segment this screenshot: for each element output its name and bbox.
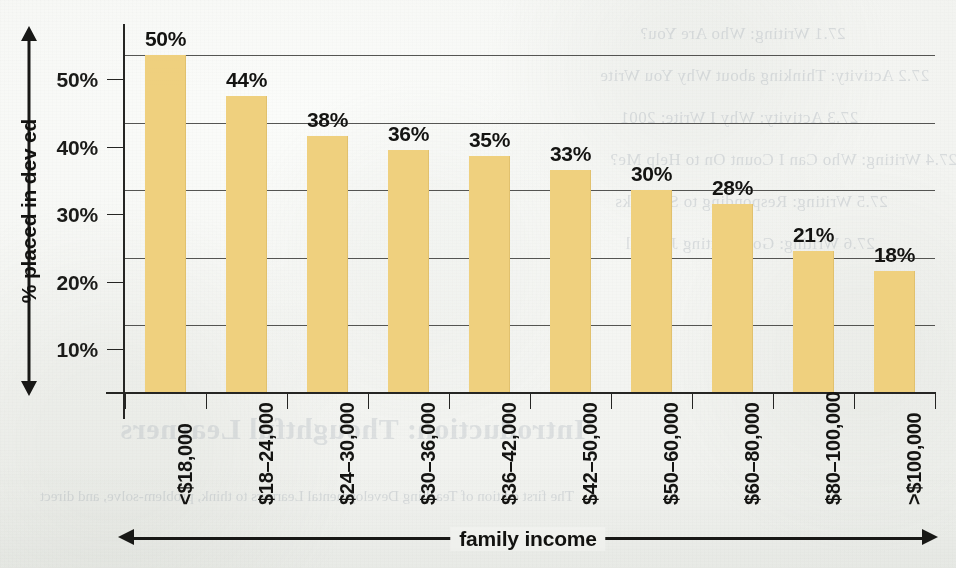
y-arrow-down-icon bbox=[21, 381, 37, 396]
x-arrow-right-icon bbox=[922, 529, 938, 545]
x-tick-mark bbox=[611, 394, 612, 409]
bar-value-label: 35% bbox=[469, 128, 510, 152]
y-tick-mark: 10% bbox=[107, 349, 125, 350]
bar[interactable] bbox=[550, 170, 591, 393]
y-arrow-up-icon bbox=[21, 26, 37, 41]
x-category-label: <$18,000 bbox=[174, 423, 197, 505]
bar[interactable] bbox=[793, 251, 834, 393]
bar-value-label: 21% bbox=[793, 223, 834, 247]
x-tick-mark bbox=[125, 394, 126, 409]
x-category-label: $80–100,000 bbox=[822, 392, 845, 506]
bar-value-label: 36% bbox=[388, 122, 429, 146]
x-category-label: $18–24,000 bbox=[255, 402, 278, 505]
y-tick-label: 10% bbox=[57, 338, 98, 362]
x-category-label: $60–80,000 bbox=[741, 402, 764, 505]
bar-value-label: 38% bbox=[307, 108, 348, 132]
bar[interactable] bbox=[469, 156, 510, 393]
bar-value-label: 50% bbox=[145, 27, 186, 51]
bar-value-label: 18% bbox=[874, 243, 915, 267]
bar-value-label: 33% bbox=[550, 142, 591, 166]
gridline-50% bbox=[125, 55, 935, 56]
bar-value-label: 28% bbox=[712, 176, 753, 200]
x-tick-mark bbox=[287, 394, 288, 409]
bar[interactable] bbox=[631, 190, 672, 393]
bar[interactable] bbox=[874, 271, 915, 393]
x-tick-mark bbox=[692, 394, 693, 409]
bar[interactable] bbox=[712, 204, 753, 393]
y-tick-mark: 40% bbox=[107, 147, 125, 148]
x-tick-mark bbox=[368, 394, 369, 409]
bar[interactable] bbox=[388, 150, 429, 393]
bar-chart: % placed in dev ed 10%20%30%40%50% 50%44… bbox=[0, 0, 956, 568]
x-category-label: $42–50,000 bbox=[579, 402, 602, 505]
x-tick-mark bbox=[206, 394, 207, 409]
x-tick-mark bbox=[773, 394, 774, 409]
x-axis-title: family income bbox=[450, 527, 605, 551]
y-tick-label: 50% bbox=[57, 68, 98, 92]
x-category-label: $36–42,000 bbox=[498, 402, 521, 505]
y-tick-label: 30% bbox=[57, 203, 98, 227]
bar-value-label: 44% bbox=[226, 68, 267, 92]
x-category-label: $30–36,000 bbox=[417, 402, 440, 505]
y-tick-label: 40% bbox=[57, 135, 98, 159]
x-category-label: $50–60,000 bbox=[660, 402, 683, 505]
y-tick-mark: 20% bbox=[107, 282, 125, 283]
bar-value-label: 30% bbox=[631, 162, 672, 186]
y-tick-label: 20% bbox=[57, 270, 98, 294]
x-axis-title-group: family income bbox=[118, 524, 938, 554]
y-tick-mark: 30% bbox=[107, 214, 125, 215]
bar[interactable] bbox=[307, 136, 348, 393]
x-category-label: >$100,000 bbox=[903, 413, 926, 505]
x-tick-mark bbox=[854, 394, 855, 409]
bar[interactable] bbox=[226, 96, 267, 393]
plot-area: 50%44%38%36%35%33%30%28%21%18% bbox=[125, 24, 935, 393]
y-axis-title-group: % placed in dev ed bbox=[6, 26, 52, 396]
x-category-label: $24–30,000 bbox=[336, 402, 359, 505]
x-tick-mark bbox=[935, 394, 936, 409]
y-axis-title: % placed in dev ed bbox=[17, 119, 41, 303]
x-tick-mark bbox=[449, 394, 450, 409]
bar[interactable] bbox=[145, 55, 186, 393]
x-tick-mark bbox=[530, 394, 531, 409]
y-tick-mark: 50% bbox=[107, 79, 125, 80]
x-axis-line bbox=[106, 392, 936, 394]
